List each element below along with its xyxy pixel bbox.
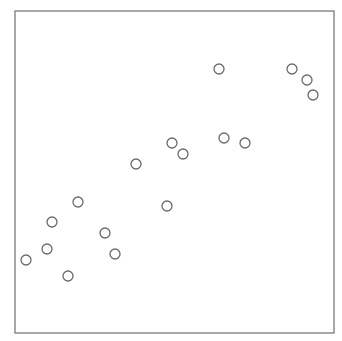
data-point bbox=[287, 64, 297, 74]
data-point bbox=[131, 159, 141, 169]
data-point bbox=[110, 249, 120, 259]
data-point bbox=[302, 75, 312, 85]
data-point bbox=[240, 138, 250, 148]
plot-frame bbox=[15, 11, 334, 333]
data-point bbox=[100, 228, 110, 238]
data-point bbox=[219, 133, 229, 143]
data-point bbox=[42, 244, 52, 254]
data-point bbox=[63, 271, 73, 281]
data-point bbox=[214, 64, 224, 74]
data-point bbox=[21, 255, 31, 265]
data-point bbox=[308, 90, 318, 100]
data-point bbox=[167, 138, 177, 148]
scatter-chart bbox=[0, 0, 342, 341]
data-point bbox=[47, 217, 57, 227]
data-point bbox=[73, 197, 83, 207]
data-points bbox=[21, 64, 318, 281]
data-point bbox=[162, 201, 172, 211]
data-point bbox=[178, 149, 188, 159]
